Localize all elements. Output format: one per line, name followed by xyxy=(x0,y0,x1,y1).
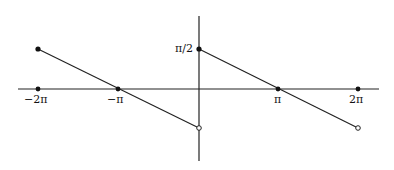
x-tick-label: 2π xyxy=(349,93,363,106)
tick-point xyxy=(116,87,121,92)
x-tick-label: −π xyxy=(107,93,123,106)
tick-point xyxy=(356,87,361,92)
closed-point xyxy=(196,46,201,51)
closed-point xyxy=(35,46,40,51)
x-tick-label: π xyxy=(274,93,281,106)
open-point xyxy=(197,126,202,131)
x-tick-label: −2π xyxy=(24,93,47,106)
y-tick-label: π/2 xyxy=(175,42,193,55)
tick-point xyxy=(276,87,281,92)
tick-point xyxy=(36,87,41,92)
plot-area xyxy=(0,0,394,170)
sawtooth-chart: −2π −π π 2π π/2 xyxy=(0,0,394,170)
open-point xyxy=(356,126,361,131)
